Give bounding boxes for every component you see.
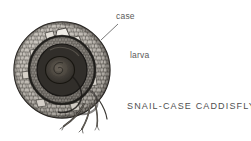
caddisfly-figure: case larva SNAIL-CASE CADDISFLY [0, 0, 251, 141]
label-case: case [116, 11, 135, 21]
figure-title: SNAIL-CASE CADDISFLY [127, 101, 251, 111]
caddisfly-illustration [0, 0, 251, 141]
label-larva: larva [130, 50, 149, 60]
case-spiral-core [46, 57, 75, 84]
case-leader-line [101, 24, 118, 40]
